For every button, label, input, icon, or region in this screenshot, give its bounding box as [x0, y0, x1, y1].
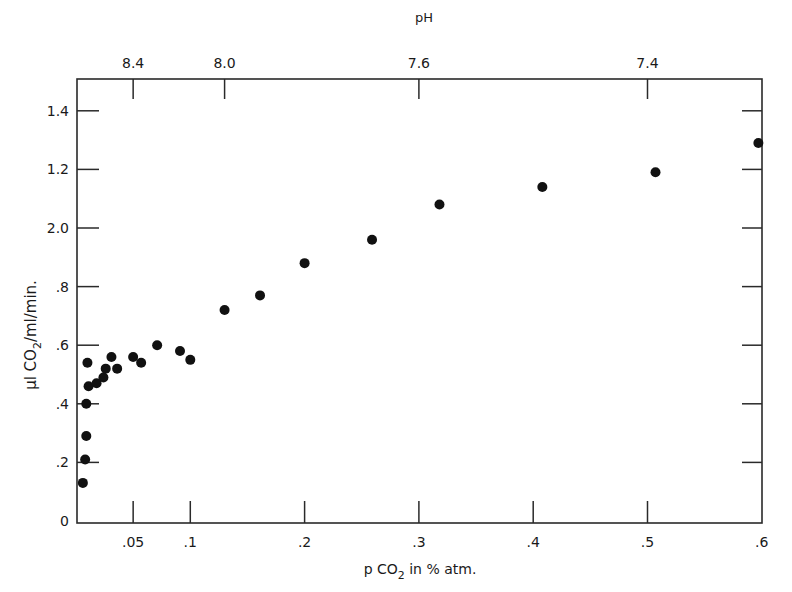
x-tick-label: .3	[412, 534, 425, 550]
y-tick-label: .6	[56, 337, 69, 353]
ph-tick-label: 8.4	[122, 55, 144, 71]
x-axis-title-suffix: in % atm.	[405, 561, 477, 577]
plot-border	[77, 79, 762, 523]
data-point	[98, 372, 108, 382]
data-point	[128, 352, 138, 362]
data-point	[185, 355, 195, 365]
x-tick-label: .2	[298, 534, 311, 550]
y-tick-label: .2	[56, 454, 69, 470]
x-tick-label: .05	[122, 534, 144, 550]
data-point	[78, 478, 88, 488]
data-point	[753, 138, 763, 148]
x-tick-label: .6	[755, 534, 768, 550]
data-point	[367, 235, 377, 245]
y-axis-title-suffix: /ml/min.	[22, 280, 40, 342]
data-points	[78, 138, 764, 488]
ph-tick-label: 7.4	[636, 55, 658, 71]
data-point	[106, 352, 116, 362]
scatter-chart: 0.2.4.6.82.01.21.4 .05.1.2.3.4.5.6 8.48.…	[0, 0, 792, 592]
data-point	[82, 358, 92, 368]
y-tick-label: 1.4	[47, 103, 69, 119]
x-axis-title-prefix: p CO	[364, 561, 398, 577]
data-point	[152, 340, 162, 350]
y-tick-label: .8	[56, 279, 69, 295]
y-tick-label: .4	[56, 396, 69, 412]
x-axis-title: p CO2 in % atm.	[364, 561, 477, 582]
x-tick-label: .4	[527, 534, 540, 550]
x-axis-title-subscript: 2	[398, 569, 405, 582]
y-tick-label: 1.2	[47, 161, 69, 177]
plot-frame	[77, 79, 762, 523]
data-point	[537, 182, 547, 192]
data-point	[651, 167, 661, 177]
data-point	[81, 399, 91, 409]
data-point	[220, 305, 230, 315]
ph-tick-label: 7.6	[408, 55, 430, 71]
y-axis-title: µl CO2/ml/min.	[22, 280, 44, 390]
ph-tick-label: 8.0	[213, 55, 235, 71]
y-tick-label: 0	[60, 513, 69, 529]
x-axis-ticks: .05.1.2.3.4.5.6	[122, 501, 769, 550]
data-point	[300, 258, 310, 268]
data-point	[112, 364, 122, 374]
x-tick-label: .5	[641, 534, 654, 550]
data-point	[80, 454, 90, 464]
top-ph-axis-ticks: 8.48.07.67.4	[122, 55, 659, 99]
data-point	[434, 200, 444, 210]
data-point	[136, 358, 146, 368]
x-tick-label: .1	[184, 534, 197, 550]
data-point	[81, 431, 91, 441]
data-point	[101, 364, 111, 374]
y-axis-ticks: 0.2.4.6.82.01.21.4	[47, 103, 762, 529]
data-point	[175, 346, 185, 356]
y-tick-label: 2.0	[47, 220, 69, 236]
y-axis-title-prefix: µl CO	[22, 349, 40, 390]
top-axis-title: pH	[415, 10, 433, 25]
data-point	[255, 290, 265, 300]
y-axis-title-subscript: 2	[31, 342, 44, 349]
